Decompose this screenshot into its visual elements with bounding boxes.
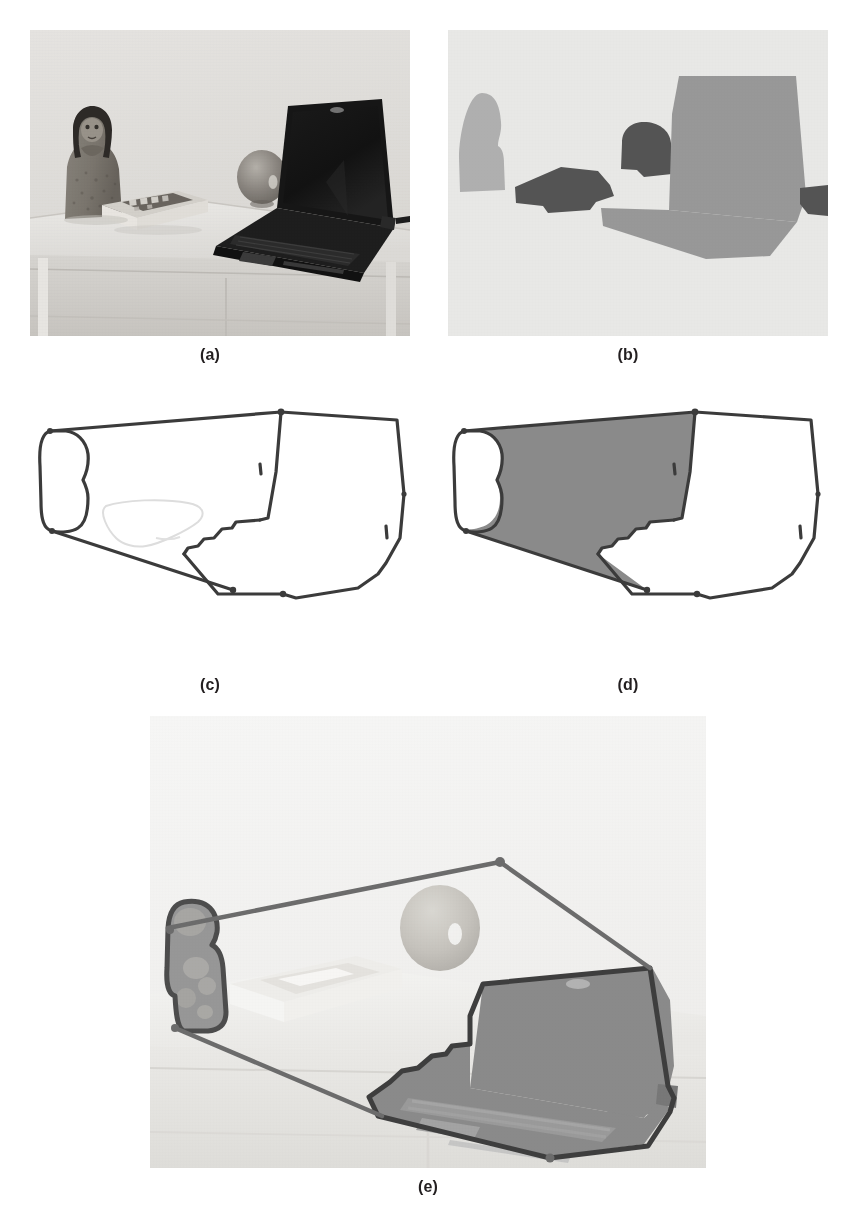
desk-scene-photo [30,30,410,336]
figurine-eye-left [85,125,89,130]
panel-a-photograph [30,30,410,336]
mask-region-laptop-lid [669,76,806,222]
panel-e-overlay [150,716,706,1168]
table-leg-left [38,258,48,336]
panel-label-d: (d) [568,676,688,694]
contour-outline [28,398,412,620]
overlay-ball-body [400,885,480,971]
panel-label-c: (c) [150,676,270,694]
figure-root: (a) (b) (c) (d) (e) [0,0,856,1219]
panel-c-contour-outline [28,398,412,620]
overlay-laptop-logo [566,979,590,989]
ball-base [250,200,274,208]
panel-b-segmentation-mask [448,30,828,336]
panel-d-filled-region [442,398,826,620]
panel-label-a: (a) [150,346,270,364]
overlay-glass-ball [400,885,480,971]
figurine-eye-right [94,125,98,130]
panel-label-e: (e) [368,1178,488,1196]
table-leg-right [386,262,396,336]
overlay-ball-highlight [448,923,462,945]
mask-region-ball [621,122,672,177]
laptop-logo [330,107,344,113]
segmentation-mask [448,30,828,336]
laptop-screen [283,106,388,220]
panel-label-b: (b) [568,346,688,364]
contour-overlay-on-photo [150,716,706,1168]
ball-highlight [269,175,278,189]
figurine-shadow [64,215,128,225]
contour-tick-right-upper [260,464,261,474]
contour-tick-right-lower [386,526,387,538]
contour-tick-right-upper-d [674,464,675,474]
contour-tick-right-lower-d [800,526,801,538]
book-shadow [114,225,202,235]
filled-contour [442,398,826,620]
